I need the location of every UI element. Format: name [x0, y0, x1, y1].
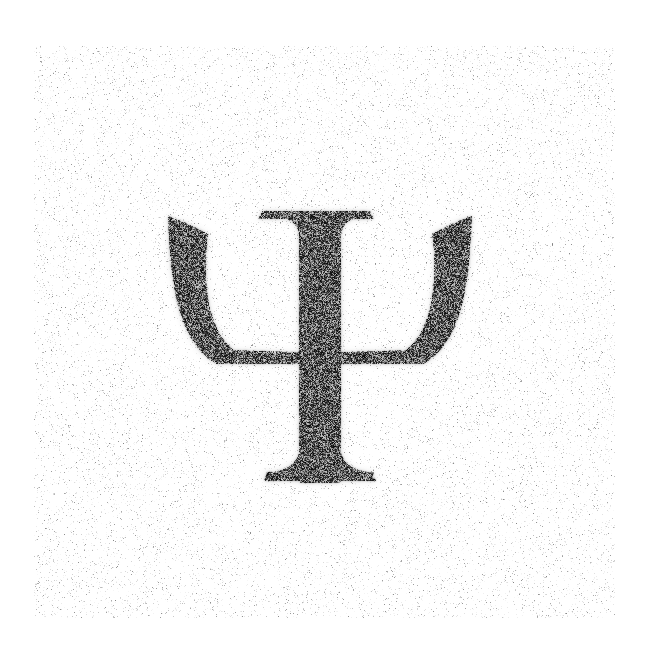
psi-glyph — [0, 0, 645, 652]
noise-canvas — [34, 46, 615, 618]
glyph-canvas — [0, 0, 645, 652]
image-canvas: Ψ — [0, 0, 645, 652]
background-noise-field — [34, 46, 615, 618]
